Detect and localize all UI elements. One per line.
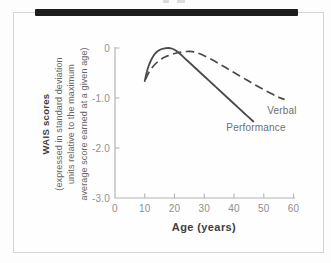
x-tick-label: 30 bbox=[190, 202, 218, 215]
y-axis-title: WAIS scores (expressed in standard devia… bbox=[40, 36, 90, 212]
y-axis-title-sub-2: units relative to the maximum bbox=[65, 36, 78, 212]
y-axis-title-sub-1: (expressed in standard deviation bbox=[53, 36, 66, 212]
x-axis-title: Age (years) bbox=[115, 221, 293, 233]
performance-series-label: Performance bbox=[214, 122, 298, 133]
y-axis-title-sub-3: average score earned at a given age) bbox=[78, 36, 91, 212]
verbal-series-label: Verbal bbox=[252, 105, 312, 116]
x-tick-label: 60 bbox=[280, 202, 308, 215]
x-tick-label: 10 bbox=[131, 202, 159, 215]
verbal-curve bbox=[146, 51, 285, 99]
y-axis-title-heading: WAIS scores bbox=[40, 36, 53, 212]
x-tick-label: 50 bbox=[250, 202, 278, 215]
performance-curve bbox=[145, 48, 254, 122]
x-tick-label: 20 bbox=[161, 202, 189, 215]
x-tick-label: 40 bbox=[220, 202, 248, 215]
